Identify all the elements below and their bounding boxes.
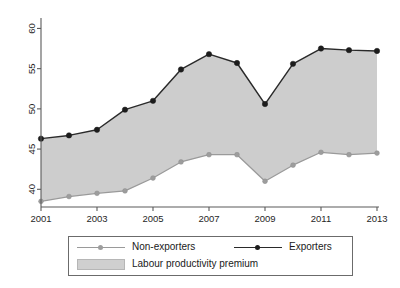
data-point [263, 179, 268, 184]
band-path [41, 49, 377, 202]
chart-legend: Non-exporters Exporters Labour productiv… [68, 236, 353, 276]
data-point [207, 152, 212, 157]
data-point [234, 60, 239, 65]
data-point [319, 150, 324, 155]
data-point [150, 98, 155, 103]
data-point [318, 46, 323, 51]
x-tick-label: 2005 [142, 213, 163, 224]
y-tick-label: 40 [27, 184, 38, 195]
data-point [123, 189, 128, 194]
legend-item-non-exporters: Non-exporters [77, 241, 195, 253]
data-point [347, 152, 352, 157]
legend-label-non-exporters: Non-exporters [132, 241, 195, 253]
data-point [262, 101, 267, 106]
data-point [94, 127, 99, 132]
x-tick-label: 2011 [311, 213, 331, 224]
data-point [346, 47, 351, 52]
y-tick-label: 45 [27, 144, 38, 155]
x-tick-label: 2009 [254, 213, 275, 224]
data-point [67, 194, 72, 199]
x-axis-ticks: 2001200320052007200920112013 [30, 207, 387, 224]
legend-area-swatch-icon [77, 259, 125, 270]
productivity-premium-band [41, 49, 377, 202]
y-axis-ticks: 4045505560 [27, 23, 42, 194]
data-point [95, 191, 100, 196]
y-tick-label: 50 [27, 104, 38, 115]
data-point [291, 163, 296, 168]
data-point [178, 67, 183, 72]
data-point [151, 176, 156, 181]
x-tick-label: 2013 [366, 213, 387, 224]
legend-label-exporters: Exporters [289, 241, 332, 253]
data-point [290, 61, 295, 66]
chart-figure: 4045505560 2001200320052007200920112013 … [0, 0, 400, 288]
legend-item-premium-band: Labour productivity premium [77, 258, 258, 270]
data-point [66, 133, 71, 138]
y-tick-label: 60 [27, 23, 38, 34]
legend-line-marker-icon [234, 241, 282, 253]
data-point [179, 160, 184, 165]
data-point [235, 152, 240, 157]
y-tick-label: 55 [27, 63, 38, 74]
x-tick-label: 2007 [198, 213, 219, 224]
legend-line-marker-icon [77, 241, 125, 253]
data-point [374, 48, 379, 53]
legend-item-exporters: Exporters [234, 241, 332, 253]
x-tick-label: 2003 [86, 213, 107, 224]
data-point [206, 51, 211, 56]
x-tick-label: 2001 [30, 213, 51, 224]
legend-label-premium-band: Labour productivity premium [132, 258, 258, 270]
data-point [122, 107, 127, 112]
data-point [375, 151, 380, 156]
